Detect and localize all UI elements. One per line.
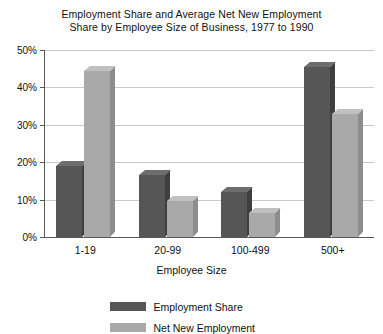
y-axis-tick (40, 87, 44, 88)
chart-title-line-1: Employment Share and Average Net New Emp… (61, 8, 321, 20)
x-axis-category-label: 20-99 (127, 244, 210, 256)
bar-500plus-employment-share (304, 67, 330, 237)
legend-item-employment-share: Employment Share (110, 297, 274, 315)
x-axis-category-label: 500+ (292, 244, 375, 256)
y-axis-tick (40, 50, 44, 51)
y-axis-tick (40, 237, 44, 238)
bar-group (304, 50, 358, 237)
plot-area: 50%40%30%20%10%0% (44, 50, 374, 238)
bar-20-99-net-new-employment (167, 201, 193, 237)
legend-item-net-new-employment: Net New Employment (110, 318, 274, 334)
y-axis-line (44, 50, 45, 238)
x-axis-category-label: 1-19 (44, 244, 127, 256)
y-axis-tick (40, 125, 44, 126)
bar-side-face (110, 65, 115, 237)
bar-20-99-employment-share (139, 175, 165, 237)
y-axis-tick-label: 50% (17, 45, 37, 56)
bar-front-face (139, 175, 165, 237)
chart-legend: Employment Share Net New Employment (0, 297, 383, 334)
bar-100-499-net-new-employment (249, 213, 275, 237)
legend-label: Net New Employment (154, 322, 256, 334)
bar-front-face (304, 67, 330, 237)
legend-swatch-icon (110, 323, 146, 332)
y-axis-tick (40, 162, 44, 163)
x-axis-title: Employee Size (0, 264, 383, 276)
bar-front-face (221, 192, 247, 237)
bar-1-19-net-new-employment (84, 71, 110, 237)
bar-1-19-employment-share (56, 166, 82, 237)
y-axis-tick-label: 10% (17, 194, 37, 205)
y-axis-tick-label: 0% (23, 232, 37, 243)
bar-group (221, 50, 275, 237)
bar-100-499-employment-share (221, 192, 247, 237)
bar-front-face (332, 114, 358, 237)
legend-swatch-icon (110, 302, 146, 311)
chart-title-line-2: Share by Employee Size of Business, 1977… (0, 21, 383, 34)
legend-label: Employment Share (154, 301, 243, 313)
chart-container: Employment Share and Average Net New Emp… (0, 0, 383, 334)
bar-group (139, 50, 193, 237)
y-axis-tick-label: 40% (17, 82, 37, 93)
bar-side-face (193, 196, 198, 237)
bar-group (56, 50, 110, 237)
bar-500plus-net-new-employment (332, 114, 358, 237)
bar-front-face (84, 71, 110, 237)
x-axis-line (44, 237, 374, 238)
chart-title: Employment Share and Average Net New Emp… (0, 8, 383, 34)
y-axis-tick-label: 30% (17, 119, 37, 130)
y-axis-tick-label: 20% (17, 157, 37, 168)
x-axis-category-label: 100-499 (209, 244, 292, 256)
bar-side-face (358, 108, 363, 237)
bar-front-face (56, 166, 82, 237)
bar-front-face (167, 201, 193, 237)
bar-front-face (249, 213, 275, 237)
y-axis-tick (40, 200, 44, 201)
